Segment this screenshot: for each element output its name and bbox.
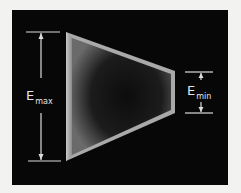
- emin-label-main: E: [187, 83, 195, 98]
- tapered-shape: [66, 32, 175, 161]
- emax-label-sub: max: [35, 97, 52, 106]
- emin-label: Emin: [187, 82, 211, 98]
- emin-label-sub: min: [196, 92, 211, 101]
- emax-label: Emax: [26, 87, 53, 103]
- emax-label-main: E: [26, 88, 34, 103]
